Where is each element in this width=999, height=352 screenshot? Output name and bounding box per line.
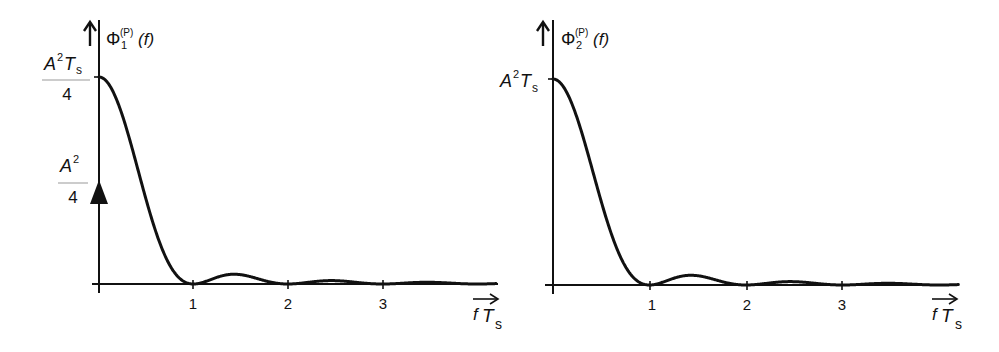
svg-text:(P): (P): [575, 27, 588, 38]
left-y-label: Φ 1 (P) (f): [106, 27, 154, 51]
svg-text:s: s: [76, 63, 82, 77]
svg-text:(P): (P): [120, 27, 133, 38]
left-dirac-arrow-icon: [90, 180, 108, 204]
svg-text:(f): (f): [138, 30, 154, 49]
right-xtick-3: 3: [838, 296, 846, 313]
svg-text:A: A: [499, 71, 512, 91]
right-xtick-2: 2: [743, 296, 751, 313]
svg-text:f: f: [932, 305, 939, 324]
svg-text:A: A: [43, 54, 56, 74]
svg-text:Φ: Φ: [106, 29, 120, 49]
right-y-label: Φ 2 (P) (f): [561, 27, 609, 51]
svg-text:1: 1: [121, 39, 127, 51]
svg-text:2: 2: [576, 39, 582, 51]
left-psd-curve: [99, 77, 496, 284]
figure-canvas: 1 2 3 f T s Φ 1 (P) (f) A 2 T s 4: [0, 0, 999, 352]
svg-text:(f): (f): [593, 30, 609, 49]
right-psd-curve: [553, 79, 958, 285]
svg-text:s: s: [532, 81, 538, 95]
svg-text:Φ: Φ: [561, 29, 575, 49]
svg-text:f: f: [473, 305, 480, 324]
svg-text:2: 2: [513, 68, 519, 80]
left-x-label: f T s: [473, 294, 502, 332]
left-dirac-label: A 2 4: [58, 153, 88, 207]
left-xtick-2: 2: [284, 295, 292, 312]
svg-text:4: 4: [62, 85, 71, 104]
right-x-label: f T s: [932, 294, 962, 332]
svg-text:A: A: [59, 156, 72, 176]
left-y-arrow-icon: [84, 22, 96, 46]
svg-text:2: 2: [73, 153, 79, 165]
svg-text:T: T: [482, 305, 495, 326]
left-xtick-3: 3: [379, 295, 387, 312]
left-panel: 1 2 3 f T s Φ 1 (P) (f) A 2 T s 4: [42, 20, 502, 332]
right-xtick-1: 1: [648, 296, 656, 313]
svg-text:s: s: [955, 316, 962, 332]
svg-text:s: s: [495, 316, 502, 332]
svg-text:4: 4: [68, 188, 77, 207]
left-peak-label: A 2 T s 4: [42, 51, 90, 104]
right-y-arrow-icon: [537, 22, 549, 46]
svg-text:2: 2: [57, 51, 63, 63]
svg-text:T: T: [941, 305, 954, 326]
right-peak-label: A 2 T s: [499, 68, 538, 95]
left-xtick-1: 1: [189, 295, 197, 312]
right-panel: 1 2 3 f T s Φ 2 (P) (f) A 2 T s: [499, 20, 962, 332]
